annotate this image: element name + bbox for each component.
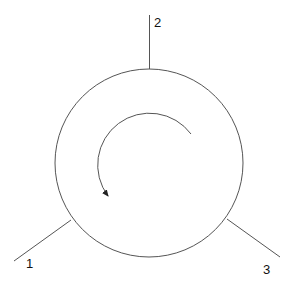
- circulator-body: [55, 69, 243, 257]
- port-1-line: [14, 220, 71, 261]
- circulator-diagram: 2 1 3: [0, 0, 294, 284]
- port-2-label: 2: [154, 15, 161, 30]
- port-3-line: [227, 219, 280, 257]
- port-3-label: 3: [263, 262, 270, 277]
- port-1-label: 1: [26, 256, 33, 271]
- rotation-arrow-icon: [98, 113, 191, 196]
